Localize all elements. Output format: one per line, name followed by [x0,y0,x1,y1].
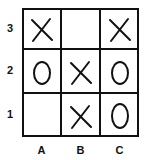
x-mark-icon [67,57,95,87]
row-label-1: 1 [4,108,16,120]
cell-b1[interactable] [61,94,100,137]
o-mark-icon [28,57,56,87]
cell-a2[interactable] [22,50,61,93]
cell-a3[interactable] [22,8,61,51]
o-mark-icon [106,101,134,131]
cell-a1[interactable] [22,94,61,137]
x-mark-icon [28,15,56,45]
cell-c1[interactable] [100,94,139,137]
cell-c3[interactable] [100,8,139,51]
cell-c2[interactable] [100,50,139,93]
col-label-a: A [22,144,61,156]
row-label-2: 2 [4,64,16,76]
o-mark-icon [106,57,134,87]
col-label-b: B [61,144,100,156]
row-label-3: 3 [4,22,16,34]
cell-b3[interactable] [61,8,100,51]
x-mark-icon [67,101,95,131]
x-mark-icon [106,15,134,45]
col-label-c: C [100,144,139,156]
cell-b2[interactable] [61,50,100,93]
